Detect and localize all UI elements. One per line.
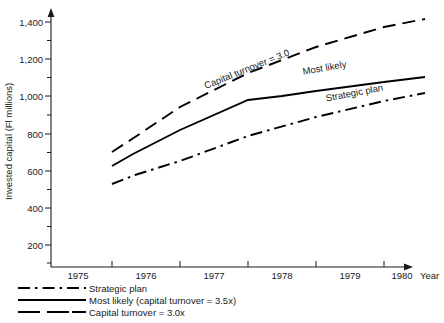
chart-legend: Strategic plan Most likely (capital turn… (18, 283, 236, 318)
legend-label-capital-turnover: Capital turnover = 3.0x (89, 307, 185, 318)
y-axis-arrowhead (48, 8, 55, 17)
legend-label-strategic-plan: Strategic plan (89, 283, 147, 294)
x-axis-title: Year (420, 270, 439, 281)
y-tick-label-200: 200 (27, 240, 43, 251)
y-tick-label-1000: 1,000 (19, 91, 43, 102)
series-line-strategic-plan (112, 93, 425, 184)
x-ticks (112, 261, 384, 267)
x-tick-label-1976: 1976 (135, 270, 156, 281)
curve-label-capital-turnover: Capital turnover = 3.0 (202, 47, 291, 91)
invested-capital-line-chart: 1,400 1,200 1,000 800 600 400 200 Invest… (0, 0, 444, 323)
y-minor-ticks (47, 41, 51, 264)
legend-item-most-likely: Most likely (capital turnover = 3.5x) (18, 295, 236, 306)
curve-label-strategic-plan: Strategic plan (325, 82, 384, 104)
x-tick-label-1978: 1978 (271, 270, 292, 281)
y-tick-label-1200: 1,200 (19, 54, 43, 65)
x-tick-label-1975: 1975 (67, 270, 88, 281)
chart-figure: 1,400 1,200 1,000 800 600 400 200 Invest… (0, 0, 444, 323)
y-major-ticks (45, 22, 51, 245)
y-tick-label-400: 400 (27, 203, 43, 214)
x-tick-label-1980: 1980 (391, 270, 412, 281)
y-tick-labels: 1,400 1,200 1,000 800 600 400 200 (19, 17, 43, 251)
y-axis-title: Invested capital (Fl millions) (3, 83, 14, 200)
x-tick-label-1977: 1977 (203, 270, 224, 281)
x-tick-labels: 1975 1976 1977 1978 1979 1980 (67, 270, 412, 281)
curve-label-most-likely: Most likely (302, 58, 348, 77)
x-tick-label-1979: 1979 (339, 270, 360, 281)
y-tick-label-600: 600 (27, 166, 43, 177)
legend-item-capital-turnover: Capital turnover = 3.0x (18, 307, 185, 318)
legend-item-strategic-plan: Strategic plan (18, 283, 147, 294)
y-axis (48, 8, 55, 267)
y-tick-label-1400: 1,400 (19, 17, 43, 28)
y-tick-label-800: 800 (27, 129, 43, 140)
legend-label-most-likely: Most likely (capital turnover = 3.5x) (89, 295, 236, 306)
